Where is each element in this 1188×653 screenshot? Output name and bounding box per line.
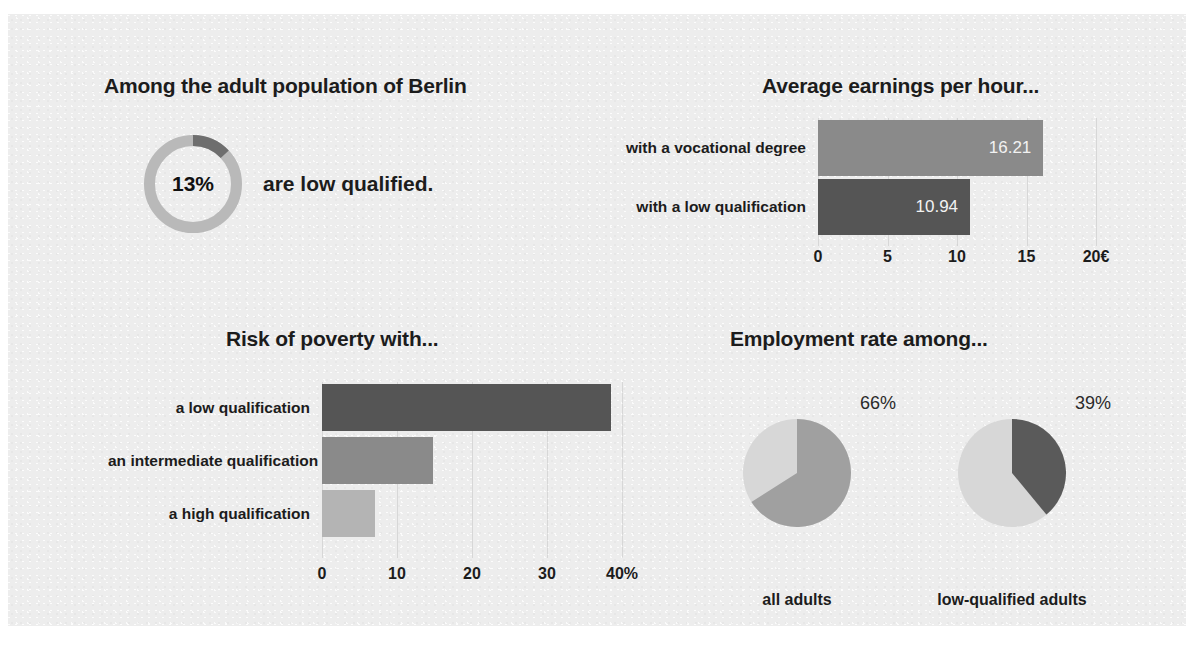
category-label-2: an intermediate qualification (108, 452, 310, 470)
bar-1 (322, 384, 611, 431)
earnings-chart-title: Average earnings per hour... (762, 74, 1039, 98)
x-tick-label-3: 20 (442, 565, 502, 583)
category-label-1: a low qualification (108, 399, 310, 417)
category-label-1: with a vocational degree (570, 139, 806, 157)
bar-2 (322, 437, 433, 484)
category-label-3: a high qualification (108, 505, 310, 523)
bar-3 (322, 490, 375, 537)
x-tick-label-2: 5 (858, 248, 918, 266)
x-tick-label-1: 0 (292, 565, 352, 583)
donut-caption-sentence: are low qualified. (263, 172, 433, 196)
x-tick-label-3: 10 (927, 248, 987, 266)
x-tick-label-4: 30 (517, 565, 577, 583)
low-qualified-donut-chart: 13% (144, 135, 242, 233)
pie-svg-2 (958, 419, 1066, 527)
employment-chart-title: Employment rate among... (730, 327, 988, 351)
infographic-panel (8, 14, 1186, 626)
poverty-chart-title: Risk of poverty with... (226, 327, 438, 351)
x-tick-label-5: 40% (592, 565, 652, 583)
donut-center-value: 13% (144, 135, 242, 233)
bar-value-1: 16.21 (818, 138, 1031, 158)
x-tick-label-1: 0 (788, 248, 848, 266)
category-label-2: with a low qualification (570, 198, 806, 216)
bar-value-2: 10.94 (818, 197, 958, 217)
pie-svg-1 (743, 419, 851, 527)
pie-percentage-label-2: 39% (1075, 393, 1111, 414)
x-tick-label-5: 20€ (1066, 248, 1126, 266)
gridline (1096, 118, 1097, 246)
x-tick-label-4: 15 (997, 248, 1057, 266)
donut-chart-title: Among the adult population of Berlin (104, 74, 467, 98)
gridline (622, 382, 623, 558)
pie-percentage-label-1: 66% (860, 393, 896, 414)
pie-caption-2: low-qualified adults (872, 591, 1152, 609)
x-tick-label-2: 10 (367, 565, 427, 583)
